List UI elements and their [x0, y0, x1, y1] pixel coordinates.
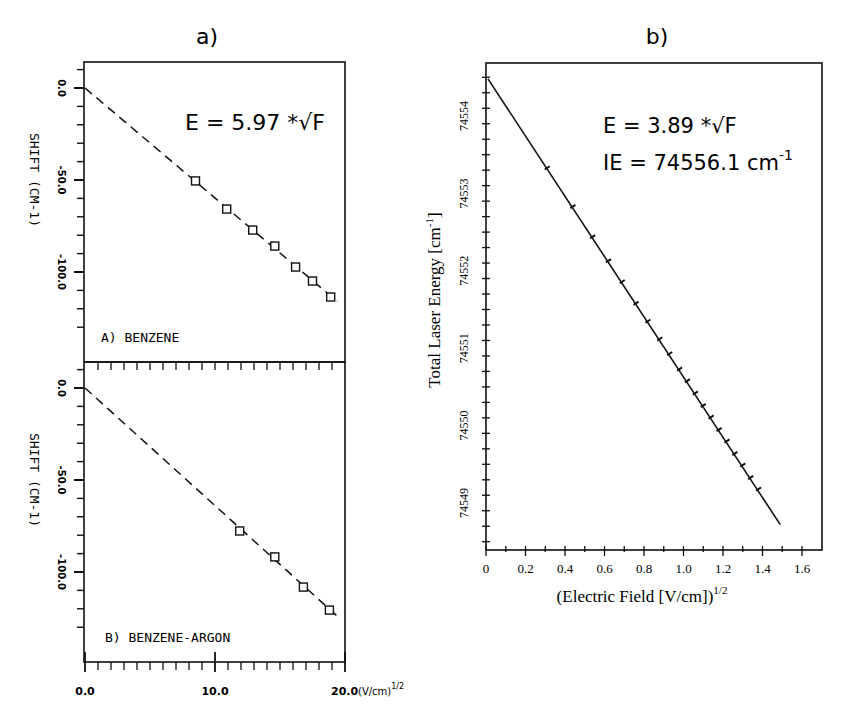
y-axis-ticks	[74, 370, 84, 628]
x-axis-label: (Electric Field [V/cm])1/2	[557, 584, 728, 606]
y-tick-label: 74554	[457, 101, 471, 131]
square-marker	[309, 277, 317, 285]
chart-b-laser-energy: 745497455074551745527455374554 00.20.40.…	[423, 63, 822, 606]
x-tick-label: 0.4	[557, 561, 574, 576]
y-tick-label: 74550	[457, 411, 471, 441]
figure: a) b) 0.0-50.0-100.0 SHIFT (CM-1) E = 5.…	[0, 0, 845, 725]
y-tick-label: -100.0	[56, 554, 67, 590]
chart-a-benzene-argon: 0.0-50.0-100.0 0.010.020.0 SHIFT (CM-1) …	[27, 362, 404, 698]
x-tick-label: 0.6	[596, 561, 613, 576]
fit-line	[488, 79, 780, 525]
x-tick-label: 0.8	[636, 561, 652, 576]
square-marker	[223, 205, 231, 213]
data-points	[236, 527, 334, 614]
x-tick-label: 1.2	[715, 561, 731, 576]
x-axis-unit: (V/cm)1/2	[358, 682, 404, 697]
y-axis-label: SHIFT (CM-1)	[27, 133, 42, 227]
y-tick-label: -50.0	[56, 166, 67, 195]
y-tick-label: 0.0	[56, 79, 67, 97]
y-tick-label: 74551	[457, 333, 471, 363]
y-tick-label: -100.0	[56, 254, 67, 290]
plot-frame	[84, 62, 345, 362]
square-marker	[271, 242, 279, 250]
fit-equation: E = 5.97 *√F	[185, 110, 325, 135]
x-tick-label: 1.0	[675, 561, 691, 576]
panel-a-title: a)	[196, 24, 218, 49]
y-tick-label: -50.0	[56, 466, 67, 495]
y-axis-ticks	[74, 70, 84, 328]
square-marker	[192, 177, 200, 185]
fit-line	[85, 388, 337, 616]
chart-title: A) BENZENE	[101, 330, 179, 345]
ionization-energy: IE = 74556.1 cm-1	[603, 147, 793, 175]
shared-x-axis-ticks	[98, 362, 332, 370]
chart-title: B) BENZENE-ARGON	[105, 630, 230, 645]
plot-frame	[84, 362, 345, 662]
x-axis-tick-labels: 0.010.020.0	[75, 685, 358, 698]
y-axis-tick-labels: 0.0-50.0-100.0	[56, 379, 67, 590]
y-tick-label: 74552	[457, 256, 471, 286]
fit-equation: E = 3.89 *√F	[603, 114, 737, 138]
y-axis-tick-labels: 745497455074551745527455374554	[457, 101, 471, 518]
x-axis-ticks	[85, 652, 345, 672]
x-tick-label: 1.4	[754, 561, 771, 576]
y-axis-label: SHIFT (CM-1)	[27, 433, 42, 527]
x-tick-label: 0.2	[517, 561, 533, 576]
square-marker	[299, 583, 307, 591]
x-tick-label: 20.0	[331, 685, 358, 698]
y-axis-label: Total Laser Energy [cm-1]	[423, 212, 444, 387]
y-tick-label: 0.0	[56, 379, 67, 397]
x-tick-label: 10.0	[201, 685, 228, 698]
square-marker	[325, 606, 333, 614]
x-tick-label: 0	[483, 561, 490, 576]
y-tick-label: 74553	[457, 178, 471, 208]
square-marker	[271, 553, 279, 561]
square-marker	[249, 226, 257, 234]
y-tick-label: 74549	[457, 488, 471, 518]
square-marker	[236, 527, 244, 535]
y-axis-tick-labels: 0.0-50.0-100.0	[56, 79, 67, 290]
x-axis-ticks	[486, 546, 802, 556]
x-axis-tick-labels: 00.20.40.60.81.01.21.41.6	[483, 561, 811, 576]
x-tick-label: 1.6	[794, 561, 811, 576]
chart-a-benzene: 0.0-50.0-100.0 SHIFT (CM-1) E = 5.97 *√F…	[27, 62, 345, 362]
square-marker	[327, 293, 335, 301]
x-tick-label: 0.0	[75, 685, 95, 698]
panel-b-title: b)	[646, 24, 669, 49]
square-marker	[292, 263, 300, 271]
